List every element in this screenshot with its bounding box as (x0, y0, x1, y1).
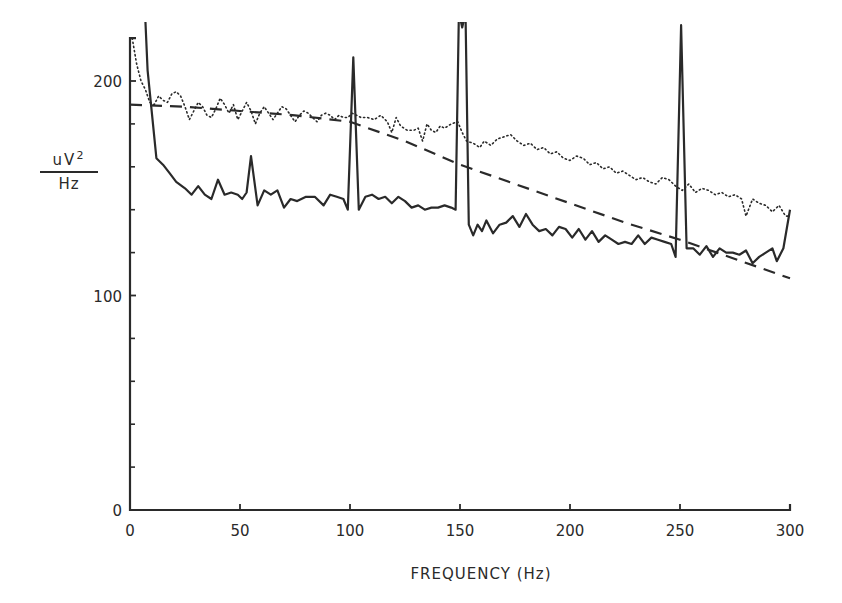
axes (130, 38, 790, 510)
series-dotted-line (132, 38, 790, 216)
series-dashed-line (130, 105, 790, 279)
y-unit-numerator: uV (53, 151, 77, 169)
axis-lines (130, 38, 790, 510)
x-tick-label: 150 (446, 522, 475, 540)
x-tick-label: 100 (336, 522, 365, 540)
y-tick-label: 0 (112, 502, 122, 520)
y-axis-title-numerator: uV2 (40, 146, 98, 173)
data-series (130, 12, 790, 278)
series-solid-line (145, 12, 790, 263)
x-tick-label: 0 (125, 522, 135, 540)
x-axis-title: FREQUENCY (Hz) (410, 565, 551, 583)
x-tick-label: 50 (230, 522, 249, 540)
y-unit-exponent: 2 (76, 149, 85, 162)
x-tick-label: 300 (776, 522, 805, 540)
y-axis-title-denominator: Hz (40, 173, 98, 194)
x-tick-label: 250 (666, 522, 695, 540)
x-tick-label: 200 (556, 522, 585, 540)
y-tick-label: 200 (93, 73, 122, 91)
y-tick-label: 100 (93, 288, 122, 306)
spectrum-chart: 050100150200250300 0100200 FREQUENCY (Hz… (0, 0, 842, 603)
y-axis-title: uV2 Hz (40, 146, 98, 194)
